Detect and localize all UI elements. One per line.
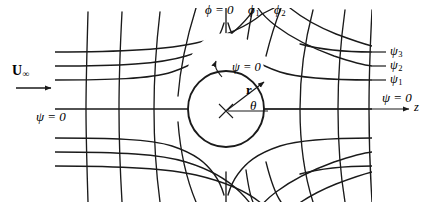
label-r-vector: r: [246, 83, 252, 96]
label-psi-two-sub: 2: [398, 63, 403, 73]
streamline-psi2-lower-back: [258, 152, 372, 210]
flow-net-figure: ϕ = 0 ϕ1 ϕ2 ψ3 ψ2 ψ1 ψ = 0 ψ = 0 ψ = 0 U…: [0, 0, 427, 210]
label-psi-one-sub: 1: [398, 77, 403, 87]
equipotential-left-2: [119, 12, 122, 202]
label-psi-zero-cylinder: ψ = 0: [232, 61, 261, 74]
streamline-psi3-tail: [300, 44, 372, 52]
label-psi-zero-left: ψ = 0: [36, 110, 66, 123]
label-psi-two: ψ2: [390, 59, 402, 72]
flow-net-canvas: [0, 0, 427, 210]
label-psi-zero-right: ψ = 0: [382, 91, 412, 104]
label-psi-two-base: ψ: [390, 58, 398, 72]
label-z-axis: z: [414, 101, 419, 114]
label-phi-one: ϕ1: [248, 3, 260, 18]
cylinder-psi-leader-arrow: [215, 61, 222, 77]
equipotential-left-3: [86, 12, 88, 202]
streamline-psi3-lower-tail: [300, 166, 372, 174]
label-phi-two: ϕ2: [274, 3, 286, 18]
label-u-infinity-sub: ∞: [22, 69, 29, 79]
label-psi-three-base: ψ: [390, 44, 398, 58]
equipotential-right-2: [338, 10, 345, 202]
label-u-infinity-base: U: [12, 63, 22, 78]
equipotential-group: [86, 8, 372, 202]
equipotential-near-front-upper: [178, 8, 196, 96]
streamline-psi2-lower-front: [55, 152, 254, 210]
label-psi-three: ψ3: [390, 45, 402, 58]
equipotential-left-1: [154, 12, 160, 202]
streamline-psi3-upper-back: [290, 8, 372, 46]
label-psi-one: ψ1: [390, 73, 402, 86]
label-phi-one-sub: 1: [255, 8, 260, 18]
label-theta: θ: [250, 99, 256, 112]
label-psi-three-sub: 3: [398, 49, 403, 59]
label-psi-one-base: ψ: [390, 72, 398, 86]
label-phi-zero: ϕ = 0: [205, 3, 234, 16]
label-phi-two-sub: 2: [281, 8, 286, 18]
polar-axes: [219, 82, 268, 118]
psi-label-ticks: [372, 52, 386, 80]
equipotential-phi2-lower: [266, 162, 281, 202]
streamline-psi3-lower-back: [290, 172, 372, 210]
label-phi-two-base: ϕ: [274, 2, 281, 17]
radius-vector-arrow: [226, 82, 264, 111]
label-phi-one-base: ϕ: [248, 2, 255, 17]
label-u-infinity: U∞: [12, 64, 29, 80]
